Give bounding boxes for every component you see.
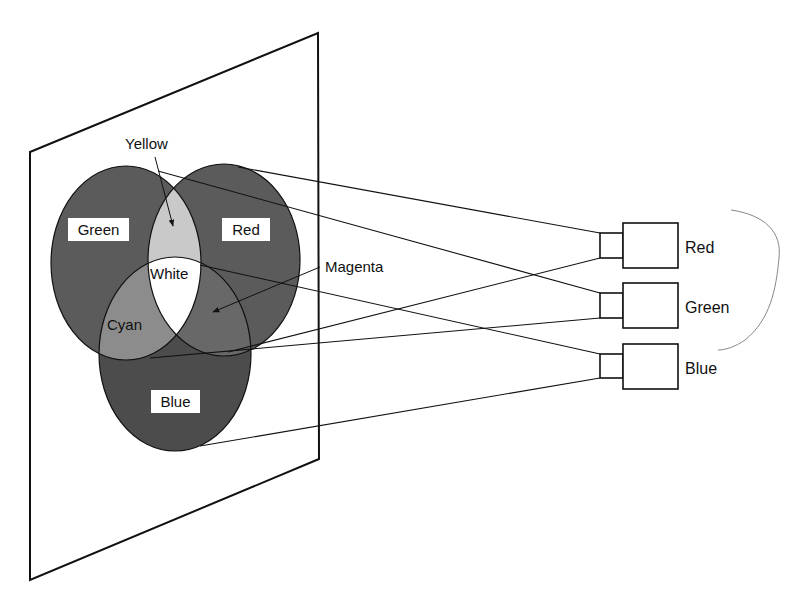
svg-text:Blue: Blue <box>685 360 717 377</box>
blue-label: Blue <box>151 390 200 413</box>
svg-text:Blue: Blue <box>160 393 190 410</box>
svg-text:Green: Green <box>78 221 120 238</box>
color-mixing-diagram: Green Red Blue White Cyan Yellow Magenta… <box>0 0 804 606</box>
projector-blue: Blue <box>600 344 717 389</box>
svg-text:Red: Red <box>685 239 714 256</box>
projector-green: Green <box>600 283 729 328</box>
red-label: Red <box>222 218 270 241</box>
green-label: Green <box>68 218 129 241</box>
projector-red: Red <box>600 223 714 268</box>
yellow-label: Yellow <box>125 135 168 152</box>
svg-text:Green: Green <box>685 299 729 316</box>
white-label: White <box>150 265 188 282</box>
cyan-label: Cyan <box>107 316 142 333</box>
pencil-bracket-mark <box>718 210 779 350</box>
svg-text:Red: Red <box>232 221 260 238</box>
magenta-label: Magenta <box>325 258 384 275</box>
